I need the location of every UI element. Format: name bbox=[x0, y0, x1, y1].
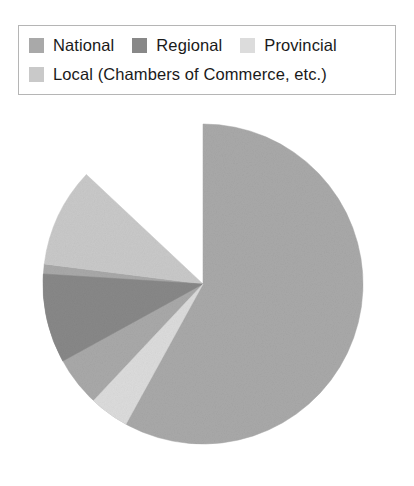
pie-plot-area bbox=[0, 0, 414, 486]
pie-svg bbox=[0, 0, 414, 486]
pie-chart-figure: National Regional Provincial Local (Cham… bbox=[0, 0, 414, 486]
pie-slice-group bbox=[43, 124, 363, 444]
